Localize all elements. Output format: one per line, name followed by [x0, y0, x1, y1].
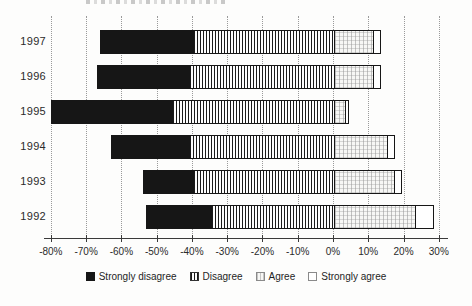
legend-label: Strongly agree — [321, 271, 386, 282]
legend-item-agree: Agree — [256, 271, 296, 282]
bar-segment-strongly-agree — [394, 171, 401, 193]
bar-row-1996 — [97, 65, 381, 89]
bar-segment-strongly-disagree — [52, 101, 172, 123]
legend-label: Strongly disagree — [99, 271, 177, 282]
bar-row-1994 — [111, 135, 395, 159]
axis-tick--10% — [298, 235, 299, 242]
year-label-1994: 1994 — [10, 140, 46, 152]
legend-label: Agree — [269, 271, 296, 282]
axis-tick-10% — [368, 235, 369, 242]
legend-label: Disagree — [203, 271, 243, 282]
year-label-1993: 1993 — [10, 175, 46, 187]
bar-segment-disagree — [189, 66, 334, 88]
year-label-1996: 1996 — [10, 70, 46, 82]
legend-swatch-disagree — [190, 272, 199, 281]
x-axis-line — [44, 238, 448, 239]
legend-swatch-strongly-agree — [308, 272, 317, 281]
axis-tick-0% — [333, 235, 334, 242]
bar-segment-disagree — [193, 31, 334, 53]
bar-segment-strongly-disagree — [147, 206, 210, 228]
legend-swatch-strongly-disagree — [86, 272, 95, 281]
scanned-chart-figure: Strongly disagreeDisagreeAgreeStrongly a… — [0, 0, 472, 306]
bar-segment-agree — [334, 31, 373, 53]
legend-swatch-agree — [256, 272, 265, 281]
gridline-30% — [439, 16, 440, 238]
axis-tick--50% — [157, 235, 158, 242]
bar-segment-agree — [334, 66, 373, 88]
year-label-1992: 1992 — [10, 210, 46, 222]
axis-tick-30% — [439, 235, 440, 242]
bar-segment-agree — [334, 136, 387, 158]
bar-segment-strongly-agree — [373, 66, 380, 88]
bar-segment-disagree — [189, 136, 334, 158]
axis-tick--80% — [51, 235, 52, 242]
bar-segment-strongly-agree — [373, 31, 380, 53]
year-label-1995: 1995 — [10, 105, 46, 117]
bar-row-1992 — [146, 205, 434, 229]
bar-segment-strongly-disagree — [98, 66, 190, 88]
axis-tick--30% — [227, 235, 228, 242]
bar-segment-strongly-agree — [387, 136, 394, 158]
bar-row-1997 — [100, 30, 381, 54]
bar-segment-disagree — [193, 171, 334, 193]
bar-segment-strongly-disagree — [112, 136, 190, 158]
bar-segment-disagree — [172, 101, 334, 123]
cropped-title-fragment — [86, 0, 228, 4]
legend: Strongly disagreeDisagreeAgreeStrongly a… — [0, 271, 472, 282]
axis-tick--70% — [86, 235, 87, 242]
gridline--80% — [51, 16, 52, 238]
axis-tick-20% — [404, 235, 405, 242]
bar-segment-agree — [334, 206, 415, 228]
bar-segment-disagree — [211, 206, 334, 228]
bar-segment-strongly-agree — [415, 206, 433, 228]
x-tick-label: 30% — [417, 246, 461, 257]
bar-segment-strongly-agree — [345, 101, 349, 123]
bar-segment-agree — [334, 101, 345, 123]
bar-segment-strongly-disagree — [144, 171, 193, 193]
year-label-1997: 1997 — [10, 35, 46, 47]
legend-item-strongly-disagree: Strongly disagree — [86, 271, 177, 282]
legend-item-disagree: Disagree — [190, 271, 243, 282]
bar-row-1993 — [143, 170, 402, 194]
bar-segment-agree — [334, 171, 394, 193]
bar-segment-strongly-disagree — [101, 31, 193, 53]
axis-tick--40% — [192, 235, 193, 242]
axis-tick--60% — [121, 235, 122, 242]
legend-item-strongly-agree: Strongly agree — [308, 271, 386, 282]
bar-row-1995 — [51, 100, 349, 124]
gridline--70% — [86, 16, 87, 238]
axis-tick--20% — [262, 235, 263, 242]
